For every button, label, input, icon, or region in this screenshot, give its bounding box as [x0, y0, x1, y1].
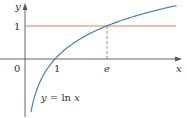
y-axis-arrow-icon	[23, 3, 28, 10]
x-tick-e-label: e	[104, 63, 110, 74]
x-axis-label: x	[176, 63, 182, 74]
x-axis-arrow-icon	[175, 57, 182, 62]
curve-label-eq: = ln	[47, 92, 75, 103]
x-tick-1-label: 1	[54, 63, 60, 74]
axes	[0, 3, 182, 117]
y-tick-1-label: 1	[14, 21, 20, 32]
origin-label: 0	[14, 63, 20, 74]
curve-label-x: x	[74, 92, 80, 103]
curve-label: y = ln x	[40, 92, 80, 103]
ln-graph: y x 0 1 e 1 y = ln x	[0, 0, 187, 118]
y-axis-label: y	[14, 1, 21, 12]
